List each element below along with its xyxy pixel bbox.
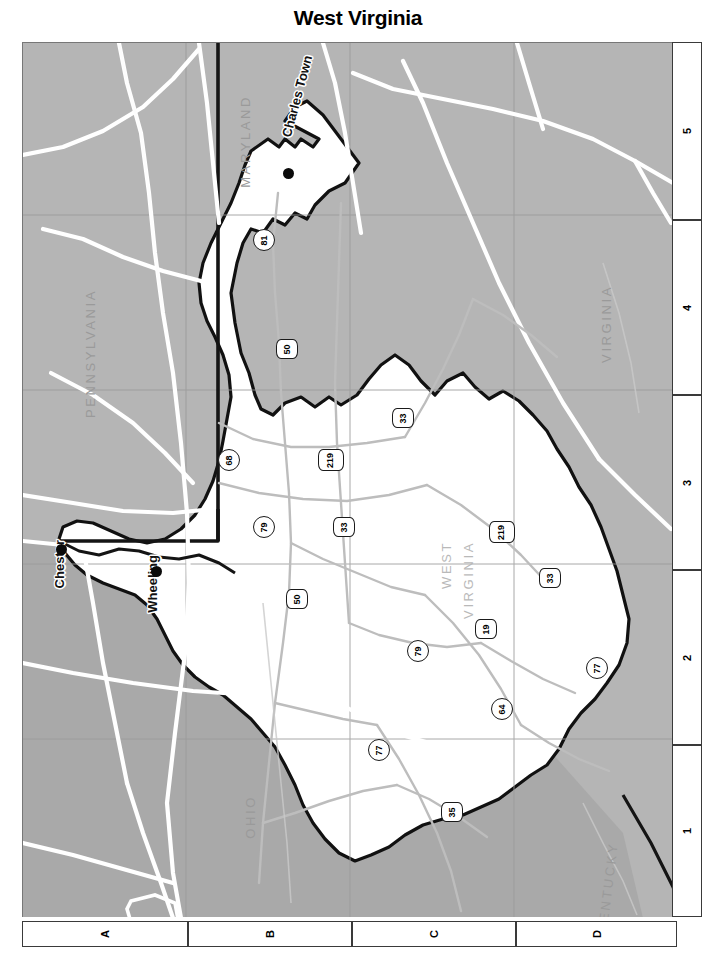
highway-shield-79-north[interactable]: 79 <box>253 516 275 538</box>
highway-shield-33-central-label: 33 <box>339 522 348 532</box>
map-canvas[interactable]: MARYLAND PENNSYLVANIA VIRGINIA OHIO KENT… <box>22 42 677 917</box>
city-dot-chester <box>56 544 67 555</box>
highway-shield-33-river[interactable]: 33 <box>539 568 561 588</box>
highway-shield-64[interactable]: 64 <box>491 698 513 720</box>
grid-index-rows: 5 4 3 2 1 <box>672 42 716 917</box>
grid-col-tab-a[interactable]: A <box>22 921 188 947</box>
map-page: West Virginia <box>0 0 716 967</box>
highway-shield-33-east-label: 33 <box>398 413 407 423</box>
grid-row-tab-4[interactable]: 4 <box>672 220 702 395</box>
highway-shield-219-south-label: 219 <box>498 524 507 539</box>
highway-shield-64-label: 64 <box>497 704 506 714</box>
grid-row-tab-5-label: 5 <box>681 128 693 134</box>
highway-shield-77-west[interactable]: 77 <box>368 739 390 761</box>
highway-shield-68-label: 68 <box>224 455 233 465</box>
highway-shield-77-east[interactable]: 77 <box>586 657 608 679</box>
highway-shield-50-west-label: 50 <box>292 594 301 604</box>
grid-row-tab-1-label: 1 <box>681 828 693 834</box>
highway-shield-50-west[interactable]: 50 <box>286 589 308 609</box>
grid-row-tab-2-label: 2 <box>681 654 693 660</box>
map-graphics <box>23 43 677 917</box>
highway-shield-77-west-label: 77 <box>374 745 383 755</box>
highway-shield-35[interactable]: 35 <box>441 802 463 822</box>
highway-shield-19[interactable]: 19 <box>475 619 497 639</box>
grid-row-tab-3[interactable]: 3 <box>672 395 702 570</box>
highway-shield-79-south-label: 79 <box>413 646 422 656</box>
city-dot-wheeling <box>151 566 162 577</box>
grid-row-tab-3-label: 3 <box>681 479 693 485</box>
highway-shield-81[interactable]: 81 <box>253 229 275 251</box>
grid-row-tab-4-label: 4 <box>681 304 693 310</box>
grid-col-tab-c-label: C <box>428 930 440 938</box>
grid-col-tab-b[interactable]: B <box>188 921 352 947</box>
highway-shield-35-label: 35 <box>447 807 456 817</box>
highway-shield-219-north-label: 219 <box>327 452 336 467</box>
grid-col-tab-d-label: D <box>590 930 602 938</box>
highway-shield-50-north[interactable]: 50 <box>276 339 298 359</box>
grid-row-tab-5[interactable]: 5 <box>672 42 702 220</box>
highway-shield-33-east[interactable]: 33 <box>392 408 414 428</box>
highway-shield-33-river-label: 33 <box>545 573 554 583</box>
grid-col-tab-c[interactable]: C <box>352 921 516 947</box>
grid-row-tab-1[interactable]: 1 <box>672 745 702 917</box>
highway-shield-219-north[interactable]: 219 <box>318 449 344 471</box>
highway-shield-77-east-label: 77 <box>592 663 601 673</box>
grid-col-tab-a-label: A <box>99 930 111 938</box>
grid-index-columns: A B C D <box>22 921 677 955</box>
highway-shield-79-north-label: 79 <box>259 522 268 532</box>
highway-shield-81-label: 81 <box>259 235 268 245</box>
grid-col-tab-d[interactable]: D <box>516 921 677 947</box>
highway-shield-50-north-label: 50 <box>282 344 291 354</box>
highway-shield-68[interactable]: 68 <box>218 449 240 471</box>
grid-col-tab-b-label: B <box>264 930 276 938</box>
highway-shield-79-south[interactable]: 79 <box>407 640 429 662</box>
grid-row-tab-2[interactable]: 2 <box>672 570 702 745</box>
page-title: West Virginia <box>0 6 716 30</box>
highway-shield-33-central[interactable]: 33 <box>333 517 355 537</box>
city-dot-charles-town <box>283 168 294 179</box>
highway-shield-219-south[interactable]: 219 <box>489 521 515 543</box>
highway-shield-19-label: 19 <box>481 624 490 634</box>
